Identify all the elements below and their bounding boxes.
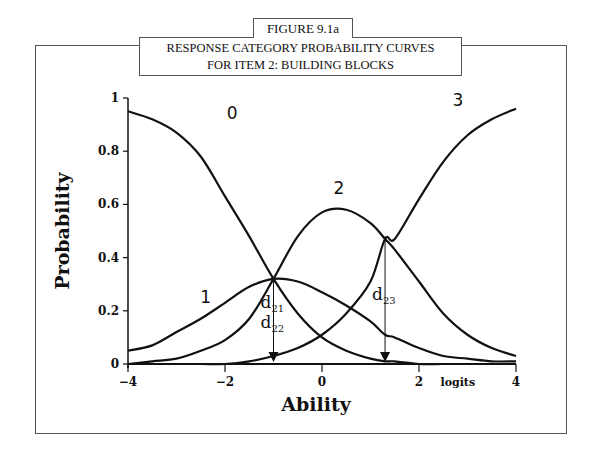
y-tick-label: 0 [111,357,119,371]
x-unit-label: logits [440,376,475,389]
x-axis-title: Ability [280,393,351,415]
curve-category-1 [128,279,516,362]
y-axis-title: Probability [51,171,73,289]
d23-label: d23 [372,284,396,306]
axes: 00.20.40.60.81−4−2024logitsAbilityProbab… [51,91,520,415]
curve-category-2 [128,209,516,364]
y-tick-label: 1 [111,91,119,105]
d21-label: d21 [261,292,285,314]
x-tick-label: 4 [512,375,520,389]
curve-label-2: 2 [334,178,345,198]
x-tick-label: −4 [119,375,137,389]
d22-label-subscript: 22 [271,323,284,334]
plot-area: 00.20.40.60.81−4−2024logitsAbilityProbab… [0,0,598,461]
d22-label: d22 [261,312,285,334]
probability-curves [128,109,516,365]
y-tick-label: 0.4 [98,251,119,265]
curve-label-1: 1 [200,287,211,307]
y-tick-label: 0.8 [98,144,119,158]
x-tick-label: 0 [318,375,326,389]
curve-labels: 0123 [200,90,463,307]
x-tick-label: −2 [216,375,234,389]
curve-label-3: 3 [452,90,463,110]
y-tick-label: 0.2 [98,304,119,318]
d21-label-subscript: 21 [271,303,284,314]
x-tick-label: 2 [415,375,423,389]
d23-label-subscript: 23 [383,295,396,306]
y-tick-label: 0.6 [98,197,119,211]
threshold-annotations: d21d22d23 [261,236,396,362]
curve-label-0: 0 [227,103,238,123]
